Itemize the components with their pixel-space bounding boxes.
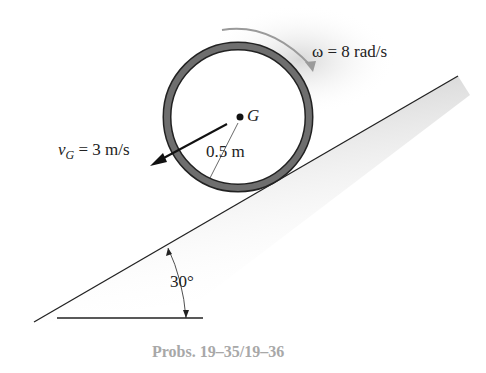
diagram-canvas: 30° ω = 8 rad/s G 0.5 m vG = 3 m/s Probs… xyxy=(0,0,486,373)
figure-caption: Probs. 19–35/19–36 xyxy=(152,343,284,360)
figure: 30° ω = 8 rad/s G 0.5 m vG = 3 m/s Probs… xyxy=(0,0,486,373)
radius-label: 0.5 m xyxy=(206,142,245,161)
omega-label: ω = 8 rad/s xyxy=(312,42,387,61)
angle-arrowhead-icon xyxy=(183,310,189,318)
center-point xyxy=(237,114,244,121)
center-label: G xyxy=(247,106,259,125)
velocity-label: vG = 3 m/s xyxy=(58,140,130,162)
angle-label: 30° xyxy=(170,272,194,291)
velocity-arrowhead-icon xyxy=(150,153,167,166)
